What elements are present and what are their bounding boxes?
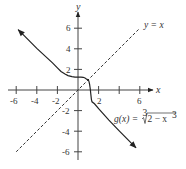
x-tick-label: -2	[52, 96, 60, 106]
y-tick-label: 6	[66, 23, 71, 33]
y-axis-label: y	[75, 1, 81, 12]
y-tick-label: -4	[62, 127, 70, 137]
identity-line-label: y = x	[143, 20, 164, 30]
curve-label: g(x) = 3 2 − x 3	[114, 108, 177, 126]
x-tick-label: 2	[97, 96, 102, 106]
x-tick-label: -4	[31, 96, 39, 106]
curve-label-radicand: 2 − x	[148, 114, 168, 124]
svg-text:g(x) =: g(x) =	[114, 114, 138, 125]
y-tick-label: 4	[66, 44, 71, 54]
x-axis: -6 -4 -2 2 6 x	[8, 84, 161, 106]
y-tick-label: -6	[62, 147, 70, 157]
x-axis-label: x	[155, 84, 161, 95]
curve-label-exponent: 3	[172, 110, 177, 120]
function-graph: -6 -4 -2 2 6 x 6 4 2 -2 -4 -6 y y = x g(…	[0, 0, 186, 169]
g-curve	[18, 30, 136, 148]
x-tick-label: -6	[10, 96, 18, 106]
curve-label-prefix: g(x) =	[114, 114, 138, 125]
x-tick-label: 6	[137, 96, 142, 106]
y-tick-label: 2	[66, 65, 71, 75]
y-tick-label: -2	[62, 106, 70, 116]
y-axis: 6 4 2 -2 -4 -6 y	[62, 1, 82, 160]
